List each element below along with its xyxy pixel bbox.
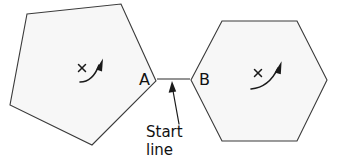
figure-root: A B Start line [0, 0, 339, 159]
vertex-label-a: A [139, 70, 150, 89]
start-line-caption-line1: Start [146, 123, 183, 141]
geometry-diagram: A B Start line [0, 0, 339, 159]
hexagon-shape-b [191, 21, 327, 141]
start-line-leader-arrow-icon [169, 81, 179, 124]
vertex-label-b: B [199, 70, 210, 89]
pentagon-shape-a [10, 4, 156, 145]
start-line-caption-line2: line [146, 141, 173, 159]
